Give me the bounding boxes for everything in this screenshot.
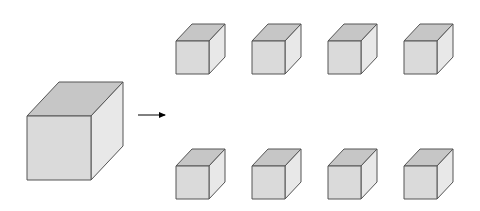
small-cube-r2-c4 xyxy=(404,149,453,199)
small-cube-r2-c3 xyxy=(328,149,377,199)
small-cubes-grid xyxy=(176,24,453,199)
cube-front-face xyxy=(328,41,361,74)
small-cube-r2-c1 xyxy=(176,149,225,199)
cube-front-face xyxy=(176,41,209,74)
cube-front-face xyxy=(404,41,437,74)
cube-front-face xyxy=(252,166,285,199)
small-cube-r2-c2 xyxy=(252,149,301,199)
small-cube-r1-c1 xyxy=(176,24,225,74)
large-cube xyxy=(27,82,123,180)
small-cube-r1-c2 xyxy=(252,24,301,74)
cube-front-face xyxy=(328,166,361,199)
small-cube-r1-c4 xyxy=(404,24,453,74)
cube-front-face xyxy=(252,41,285,74)
cube-division-diagram xyxy=(0,0,480,211)
small-cube-r1-c3 xyxy=(328,24,377,74)
cube-front-face xyxy=(404,166,437,199)
cube-front-face xyxy=(27,116,91,180)
cube-front-face xyxy=(176,166,209,199)
large-cube-shape xyxy=(27,82,123,180)
